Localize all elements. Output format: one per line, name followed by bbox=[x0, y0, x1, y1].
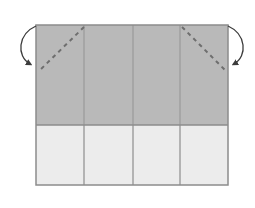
right-fold-arrow-icon bbox=[228, 26, 243, 64]
paper-white-side bbox=[36, 125, 228, 185]
left-fold-arrow-icon bbox=[21, 26, 36, 64]
paper-colored-side bbox=[36, 25, 228, 125]
fold-diagram bbox=[0, 0, 255, 208]
